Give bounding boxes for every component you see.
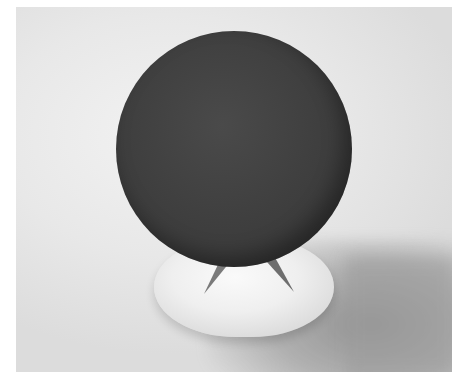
photo-frame (16, 7, 452, 372)
cast-shadow-edge (346, 257, 452, 372)
dark-sphere (116, 31, 352, 267)
